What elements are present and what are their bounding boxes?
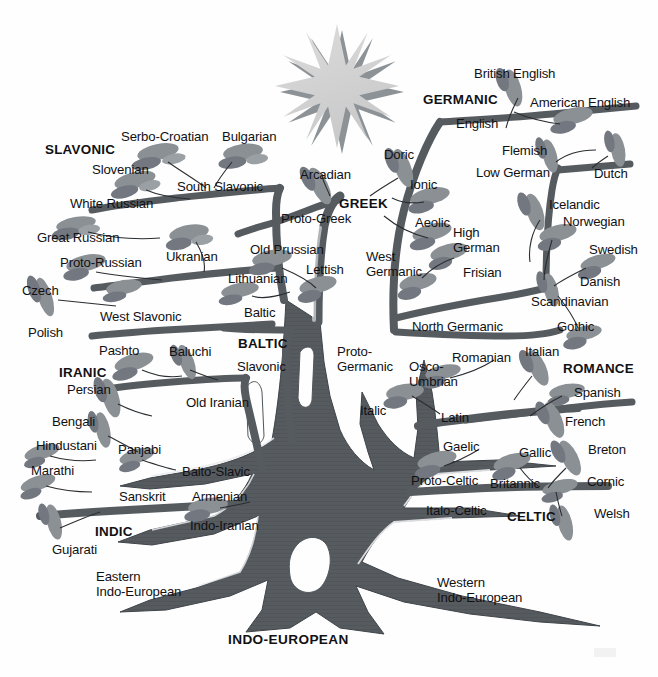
- language-label-slovenian: Slovenian: [92, 163, 149, 178]
- language-label-scandinavian: Scandinavian: [531, 295, 608, 310]
- language-label-serbo-croatian: Serbo-Croatian: [121, 130, 208, 145]
- language-label-low-german: Low German: [476, 166, 550, 181]
- language-label-hindustani: Hindustani: [36, 439, 97, 454]
- language-label-welsh: Welsh: [594, 507, 630, 522]
- language-label-slavonic-node: Slavonic: [237, 360, 286, 375]
- language-label-gujarati: Gujarati: [52, 543, 97, 558]
- language-label-high-german: High German: [453, 226, 500, 256]
- language-label-south-slavonic: South Slavonic: [177, 180, 263, 195]
- language-label-balto-slavic: Balto-Slavic: [182, 465, 250, 480]
- family-label-greek: GREEK: [339, 196, 388, 211]
- language-label-proto-russian: Proto-Russian: [60, 256, 142, 271]
- language-label-lithuanian: Lithuanian: [228, 272, 287, 287]
- language-label-romanian: Romanian: [452, 351, 511, 366]
- language-label-panjabi: Panjabi: [118, 443, 161, 458]
- language-label-pashto: Pashto: [99, 344, 139, 359]
- language-label-west-slavonic: West Slavonic: [100, 310, 181, 325]
- language-label-sanskrit: Sanskrit: [119, 490, 165, 505]
- language-label-doric: Doric: [384, 148, 414, 163]
- language-label-italo-celtic: Italo-Celtic: [426, 504, 487, 519]
- root-label-indo-european: INDO-EUROPEAN: [228, 632, 349, 647]
- language-label-persian: Persian: [67, 383, 111, 398]
- family-label-slavonic: SLAVONIC: [45, 142, 115, 157]
- language-label-gaelic: Gaelic: [443, 440, 479, 455]
- language-label-spanish: Spanish: [574, 386, 621, 401]
- language-label-gothic: Gothic: [557, 320, 594, 335]
- language-label-white-russian: White Russian: [70, 197, 153, 212]
- language-label-english: English: [456, 117, 498, 132]
- branch-label-eastern-indo-european: Eastern Indo-European: [96, 570, 181, 600]
- language-label-czech: Czech: [22, 284, 59, 299]
- language-tree-diagram: Serbo-CroatianBulgarianSlovenianSouth Sl…: [0, 0, 658, 677]
- family-label-indic: INDIC: [95, 524, 133, 539]
- language-label-dutch: Dutch: [594, 167, 628, 182]
- language-label-french: French: [565, 415, 605, 430]
- language-label-american-english: American English: [530, 96, 630, 111]
- language-label-ukranian: Ukranian: [166, 250, 218, 265]
- language-label-swedish: Swedish: [589, 243, 638, 258]
- language-label-osco-umbrian: Osco- Umbrian: [409, 360, 458, 390]
- language-label-danish: Danish: [580, 275, 620, 290]
- language-label-polish: Polish: [28, 326, 63, 341]
- language-label-latin: Latin: [441, 411, 469, 426]
- sun-star-icon: [275, 24, 404, 154]
- language-label-bulgarian: Bulgarian: [222, 130, 276, 145]
- language-label-armenian: Armenian: [192, 490, 247, 505]
- language-label-west-germanic: West Germanic: [366, 250, 422, 280]
- language-label-gallic: Gallic: [519, 446, 551, 461]
- language-label-indo-iranian: Indo-Iranian: [190, 519, 259, 534]
- language-label-britannic: Britannic: [490, 477, 540, 492]
- language-label-british-english: British English: [474, 67, 555, 82]
- language-label-ionic: Ionic: [410, 178, 437, 193]
- family-label-germanic: GERMANIC: [423, 92, 498, 107]
- language-label-proto-germanic: Proto- Germanic: [337, 345, 393, 375]
- corner-watermark: [594, 648, 616, 657]
- language-label-proto-greek: Proto-Greek: [281, 212, 351, 227]
- language-label-north-germanic: North Germanic: [412, 320, 503, 335]
- language-label-cornic: Cornic: [587, 475, 624, 490]
- language-label-norwegian: Norwegian: [563, 215, 625, 230]
- family-label-iranic: IRANIC: [59, 365, 107, 380]
- language-label-old-prussian: Old Prussian: [250, 243, 324, 258]
- language-label-marathi: Marathi: [31, 464, 74, 479]
- language-label-italic: Italic: [360, 404, 386, 419]
- language-label-bengali: Bengali: [52, 415, 95, 430]
- family-label-baltic: BALTIC: [238, 336, 288, 351]
- language-label-baltic-node: Baltic: [244, 306, 275, 321]
- language-label-frisian: Frisian: [463, 266, 502, 281]
- family-label-celtic: CELTIC: [507, 509, 556, 524]
- language-label-baluchi: Baluchi: [169, 345, 211, 360]
- branch-label-western-indo-european: Western Indo-European: [437, 576, 522, 606]
- language-label-icelandic: Icelandic: [549, 198, 600, 213]
- language-label-lettish: Lettish: [306, 263, 344, 278]
- language-label-breton: Breton: [588, 443, 626, 458]
- language-label-flemish: Flemish: [502, 144, 547, 159]
- family-label-romance: ROMANCE: [563, 361, 634, 376]
- language-label-proto-celtic: Proto-Celtic: [411, 474, 478, 489]
- language-label-arcadian: Arcadian: [300, 168, 351, 183]
- language-label-old-iranian: Old Iranian: [186, 396, 249, 411]
- language-label-great-russian: Great Russian: [37, 231, 119, 246]
- language-label-italian: Italian: [525, 345, 559, 360]
- language-label-aeolic: Aeolic: [415, 216, 450, 231]
